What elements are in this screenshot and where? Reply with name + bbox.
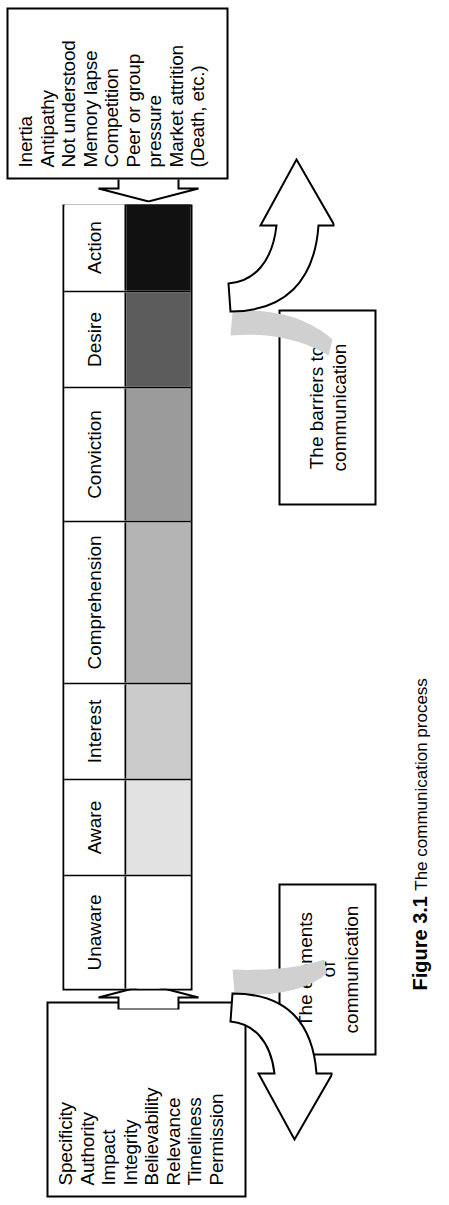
barriers-curved-arrow	[192, 157, 334, 397]
figure-number: Figure 3.1	[408, 896, 430, 990]
figure-canvas: Specificity Authority Impact Integrity B…	[0, 0, 449, 1205]
communication-ladder-table: Unaware Aware Interest Comprehension Con…	[62, 204, 192, 990]
figure-caption-text: The communication process	[411, 678, 430, 891]
stage-label: Desire	[64, 292, 126, 386]
barriers-to-communication-box: Inertia Antipathy Not understood Memory …	[6, 7, 228, 179]
stage-label: Comprehension	[64, 522, 126, 682]
elements-curved-arrow	[196, 959, 332, 1169]
stage-swatch	[126, 684, 190, 778]
barriers-item: Competition	[100, 19, 122, 167]
figure-caption: Figure 3.1 The communication process	[408, 678, 431, 990]
stage-swatch	[126, 204, 190, 290]
stage-label: Interest	[64, 684, 126, 778]
barriers-item: Not understood	[57, 19, 79, 167]
barriers-item: Peer or group	[122, 19, 144, 167]
barriers-item: (Death, etc.)	[186, 19, 208, 167]
stage-label: Action	[64, 204, 126, 290]
barriers-item: Market attrition	[165, 19, 187, 167]
barriers-item: Inertia	[14, 19, 36, 167]
elements-item: Believability	[140, 1013, 162, 1185]
ladder-stage: Unaware	[64, 874, 190, 988]
elements-item: Specificity	[54, 1013, 76, 1185]
elements-label-line: communication	[339, 905, 362, 1033]
stage-swatch	[126, 388, 190, 520]
stage-swatch	[126, 522, 190, 682]
stage-swatch	[126, 292, 190, 386]
barriers-to-ladder-arrow	[96, 176, 200, 202]
barriers-item: Memory lapse	[79, 19, 101, 167]
elements-item: Impact	[97, 1013, 119, 1185]
ladder-stage: Conviction	[64, 386, 190, 520]
elements-item: Relevance	[162, 1013, 184, 1185]
stage-label: Aware	[64, 780, 126, 874]
elements-item: Authority	[76, 1013, 98, 1185]
barriers-item: pressure	[143, 19, 165, 167]
elements-item: Integrity	[119, 1013, 141, 1185]
stage-label: Conviction	[64, 388, 126, 520]
ladder-stage: Aware	[64, 778, 190, 874]
stage-label: Unaware	[64, 876, 126, 988]
stage-swatch	[126, 780, 190, 874]
ladder-stage: Comprehension	[64, 520, 190, 682]
ladder-stage: Desire	[64, 290, 190, 386]
ladder-stage: Interest	[64, 682, 190, 778]
stage-swatch	[126, 876, 190, 988]
barriers-item: Antipathy	[36, 19, 58, 167]
ladder-stage: Action	[64, 204, 190, 290]
